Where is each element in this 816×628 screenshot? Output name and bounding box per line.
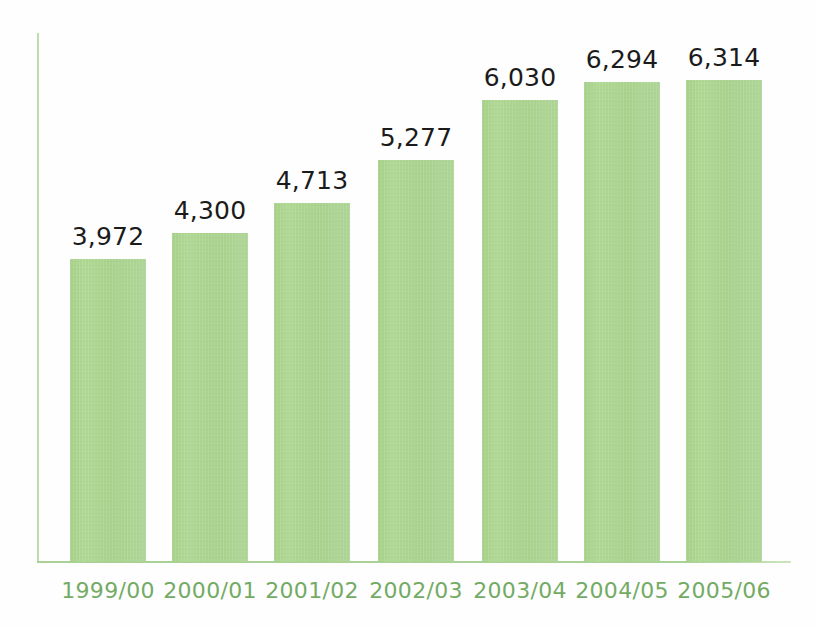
bar-rect[interactable] (686, 80, 762, 562)
x-axis-label: 1999/00 (61, 578, 155, 603)
bar-chart: 3,972 4,300 4,713 5,277 6,030 6,294 6,31… (0, 0, 816, 628)
x-axis-label: 2004/05 (575, 578, 669, 603)
bar-group: 4,713 (274, 203, 350, 562)
bar-rect[interactable] (70, 259, 146, 562)
bar-value-label: 4,713 (276, 166, 349, 195)
bar-group: 4,300 (172, 233, 248, 562)
bar-rect[interactable] (274, 203, 350, 562)
bar-rect[interactable] (482, 100, 558, 562)
bar-group: 3,972 (70, 259, 146, 562)
bar-value-label: 3,972 (72, 222, 145, 251)
bar-value-label: 6,294 (586, 45, 659, 74)
bar-rect[interactable] (584, 82, 660, 562)
bar-value-label: 5,277 (380, 123, 453, 152)
bar-rect[interactable] (378, 160, 454, 562)
bar-rect[interactable] (172, 233, 248, 562)
x-axis-label: 2001/02 (265, 578, 359, 603)
x-axis-label: 2005/06 (677, 578, 771, 603)
x-axis-label: 2003/04 (473, 578, 567, 603)
bar-value-label: 6,314 (688, 43, 761, 72)
x-axis-label: 2000/01 (163, 578, 257, 603)
x-axis-category-labels: 1999/00 2000/01 2001/02 2002/03 2003/04 … (0, 578, 816, 618)
bar-group: 5,277 (378, 160, 454, 562)
bar-value-label: 4,300 (174, 196, 247, 225)
bar-group: 6,314 (686, 80, 762, 562)
bar-value-label: 6,030 (484, 63, 557, 92)
bar-group: 6,294 (584, 82, 660, 562)
x-axis-label: 2002/03 (369, 578, 463, 603)
plot-area: 3,972 4,300 4,713 5,277 6,030 6,294 6,31… (0, 0, 816, 562)
bar-group: 6,030 (482, 100, 558, 562)
